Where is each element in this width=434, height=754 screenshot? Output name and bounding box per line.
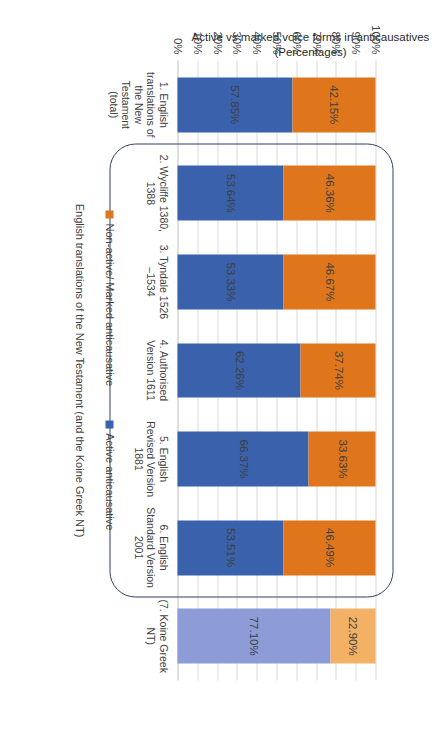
x-category-label-1: 1. Englishtranslations ofthe NewTestamen… (107, 60, 170, 149)
bar-segment-active-2[interactable]: 53.64% (177, 165, 283, 220)
y-tick-label-0: 0% (171, 37, 183, 54)
bar-group-2[interactable]: 53.64%46.36% (177, 165, 375, 220)
x-category-label-2: 2. Wycliffe 1380,1388 (144, 149, 169, 238)
bar-group-4[interactable]: 62.26%37.74% (177, 343, 375, 398)
bar-value-nonactive-6: 46.49% (323, 528, 335, 567)
bar-segment-active-1[interactable]: 57.85% (177, 77, 292, 132)
y-tick-label-40: 40% (250, 31, 262, 54)
bar-value-nonactive-5: 33.63% (336, 439, 348, 478)
bar-segment-nonactive-1[interactable]: 42.15% (292, 77, 375, 132)
bar-segment-active-6[interactable]: 53.51% (177, 520, 283, 575)
legend-label-1: Non-active/ Marked anticausative (103, 223, 115, 386)
y-tick-label-20: 20% (211, 31, 223, 54)
bar-value-nonactive-1: 42.15% (327, 85, 339, 124)
chart-legend: Non-active/ Marked anticausativeActive a… (103, 60, 115, 680)
y-tick-label-80: 80% (329, 31, 341, 54)
y-tick-label-70: 70% (310, 31, 322, 54)
y-tick-label-10: 10% (191, 31, 203, 54)
legend-item-1[interactable]: Non-active/ Marked anticausative (103, 210, 115, 386)
bar-segment-nonactive-6[interactable]: 46.49% (283, 520, 375, 575)
bar-segment-nonactive-3[interactable]: 46.67% (283, 254, 375, 309)
y-tick-label-100: 100% (369, 25, 381, 54)
y-tick-label-50: 50% (270, 31, 282, 54)
legend-swatch-icon-2 (105, 420, 113, 428)
bar-segment-nonactive-4[interactable]: 37.74% (300, 343, 375, 398)
legend-label-2: Active anticausative (103, 433, 115, 530)
bar-value-nonactive-3: 46.67% (323, 262, 335, 301)
bar-group-7[interactable]: 77.10%22.90% (177, 608, 375, 663)
y-tick-label-30: 30% (230, 31, 242, 54)
x-category-label-3: 3. Tyndale 1526–1534 (144, 237, 169, 326)
legend-item-2[interactable]: Active anticausative (103, 420, 115, 530)
bar-segment-active-5[interactable]: 66.37% (177, 431, 308, 486)
bar-segment-active-4[interactable]: 62.26% (177, 343, 300, 398)
bar-value-nonactive-4: 37.74% (332, 350, 344, 389)
y-tick-label-90: 90% (349, 31, 361, 54)
bar-segment-nonactive-2[interactable]: 46.36% (283, 165, 375, 220)
bar-value-active-7: 77.10% (247, 616, 259, 655)
x-category-label-7: (7. Koine GreekNT) (144, 591, 169, 680)
bar-group-5[interactable]: 66.37%33.63% (177, 431, 375, 486)
x-axis-title: English translations of the New Testamen… (73, 60, 85, 680)
legend-swatch-icon-1 (105, 210, 113, 218)
bar-group-6[interactable]: 53.51%46.49% (177, 520, 375, 575)
x-category-label-5: 5. EnglishRevised Version1881 (132, 414, 170, 503)
y-tick-label-60: 60% (290, 31, 302, 54)
bar-value-active-6: 53.51% (224, 528, 236, 567)
bar-value-nonactive-7: 22.90% (346, 616, 358, 655)
bar-segment-nonactive-7[interactable]: 22.90% (330, 608, 375, 663)
bar-group-1[interactable]: 57.85%42.15% (177, 77, 375, 132)
bar-value-active-3: 53.33% (224, 262, 236, 301)
bar-value-nonactive-2: 46.36% (323, 173, 335, 212)
bar-segment-active-3[interactable]: 53.33% (177, 254, 283, 309)
x-category-label-4: 4. AuthorisedVersion 1611 (144, 326, 169, 415)
bar-segment-nonactive-5[interactable]: 33.63% (308, 431, 375, 486)
bar-group-3[interactable]: 53.33%46.67% (177, 254, 375, 309)
x-category-label-6: 6. EnglishStandard Version2001 (132, 503, 170, 592)
bar-value-active-4: 62.26% (233, 350, 245, 389)
bar-segment-active-7[interactable]: 77.10% (177, 608, 330, 663)
bar-value-active-1: 57.85% (228, 85, 240, 124)
plot-area: 0%10%20%30%40%50%60%70%80%90%100%57.85%4… (177, 60, 375, 680)
bar-value-active-5: 66.37% (237, 439, 249, 478)
bar-value-active-2: 53.64% (224, 173, 236, 212)
